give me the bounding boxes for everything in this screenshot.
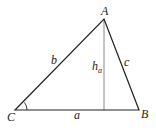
vertex-label-b: B bbox=[141, 108, 148, 120]
vertex-label-c: C bbox=[7, 111, 15, 123]
side-label-c: c bbox=[124, 56, 129, 68]
side-label-a: a bbox=[74, 109, 80, 121]
side-label-b: b bbox=[51, 54, 57, 66]
triangle-diagram: A B C a b c ha bbox=[0, 0, 156, 134]
triangle-outline bbox=[15, 19, 139, 110]
angle-c-arc bbox=[25, 103, 28, 111]
height-label: ha bbox=[92, 60, 102, 75]
height-label-subscript: a bbox=[98, 66, 102, 75]
vertex-label-a: A bbox=[101, 5, 108, 17]
